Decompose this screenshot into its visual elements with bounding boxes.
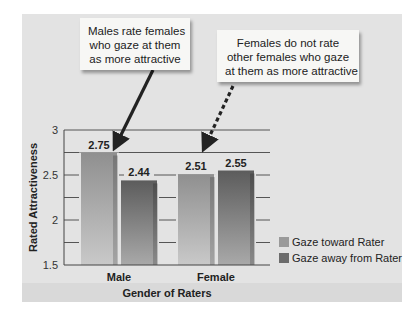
y-tick-label: 1.5 [43,259,58,271]
callout-arrow-solid [117,70,153,143]
legend-label: Gaze away from Rater [292,252,402,264]
bar [218,171,254,266]
y-tick-label: 3 [52,124,58,136]
value-label: 2.75 [88,139,109,151]
legend-label: Gaze toward Rater [292,236,385,248]
value-label: 2.55 [225,157,246,169]
callout-males-line: as more attractive [88,52,182,66]
y-tick-label: 2 [52,214,58,226]
legend-swatch [279,253,289,263]
callout-arrow-dashed [206,86,233,144]
x-axis-title: Gender of Raters [122,287,211,299]
callout-females-line: Females do not rate [225,36,351,50]
callout-males: Males rate females who gaze at them as m… [80,18,190,70]
callout-males-line: who gaze at them [88,38,182,52]
bar [178,174,214,265]
x-tick-label: Female [197,271,235,283]
bar [121,180,157,265]
bar-shadow [250,174,255,266]
value-label: 2.44 [128,166,150,178]
callout-males-line: Males rate females [88,24,182,38]
callout-females-line: at them as more attractive [225,64,351,78]
callout-females: Females do not rate other females who ga… [217,30,359,82]
legend: Gaze toward RaterGaze away from Rater [279,236,402,264]
bar-shadow [153,183,158,265]
bars [79,153,256,266]
callout-arrows [117,70,233,144]
y-axis-title: Rated Attractiveness [27,143,39,252]
bar [81,153,117,266]
x-tick-label: Male [107,271,131,283]
value-label: 2.51 [185,160,206,172]
bar-shadow [113,156,118,266]
bar-shadow [210,177,215,265]
y-tick-label: 2.5 [43,169,58,181]
callout-females-line: other females who gaze [225,50,351,64]
legend-swatch [279,237,289,247]
